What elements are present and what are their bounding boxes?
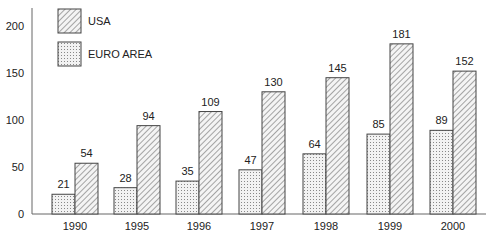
x-tick-label: 1995: [125, 220, 149, 232]
data-label: 85: [372, 118, 384, 130]
legend-label: EURO AREA: [88, 48, 153, 60]
data-label: 54: [80, 147, 92, 159]
legend: USAEURO AREA: [58, 9, 153, 66]
data-label: 35: [181, 165, 193, 177]
data-label: 181: [392, 28, 410, 40]
data-label: 28: [119, 172, 131, 184]
data-label: 64: [308, 138, 320, 150]
x-tick-label: 1997: [250, 220, 274, 232]
data-label: 109: [201, 96, 219, 108]
usa-legend-swatch: [58, 9, 81, 33]
euro-area-bar: [52, 194, 75, 214]
bar-group-2000: 891522000: [430, 55, 476, 232]
data-label: 94: [142, 110, 154, 122]
bar-group-1997: 471301997: [239, 76, 285, 232]
data-label: 21: [57, 178, 69, 190]
usa-bar: [199, 112, 222, 214]
usa-bar: [326, 78, 349, 214]
bar-group-1996: 351091996: [176, 96, 222, 232]
euro-area-bar: [176, 181, 199, 214]
y-tick-label: 150: [6, 67, 24, 79]
data-label: 145: [328, 62, 346, 74]
bar-group-1998: 641451998: [303, 62, 349, 232]
euro-area-bar: [114, 188, 137, 214]
euro-area-bar: [430, 130, 453, 214]
euro-area-bar: [239, 170, 262, 214]
data-label: 152: [455, 55, 473, 67]
data-label: 89: [435, 114, 447, 126]
x-tick-label: 1990: [63, 220, 87, 232]
bar-group-1999: 851811999: [367, 28, 413, 232]
usa-bar: [75, 163, 98, 214]
y-tick-label: 0: [18, 208, 24, 220]
euro-area-bar: [303, 154, 326, 214]
x-tick-label: 1999: [378, 220, 402, 232]
x-tick-label: 1998: [314, 220, 338, 232]
usa-bar: [453, 71, 476, 214]
y-tick-label: 50: [12, 161, 24, 173]
y-tick-label: 200: [6, 20, 24, 32]
euro-area-bar: [367, 134, 390, 214]
x-tick-label: 2000: [441, 220, 465, 232]
usa-bar: [137, 126, 160, 214]
data-label: 130: [264, 76, 282, 88]
bar-group-1995: 28941995: [114, 110, 160, 232]
euro-area-legend-swatch: [58, 42, 81, 66]
x-tick-label: 1996: [187, 220, 211, 232]
bar-group-1990: 21541990: [52, 147, 98, 232]
usa-bar: [390, 44, 413, 214]
data-label: 47: [244, 154, 256, 166]
bar-chart: 050100150200 215419902894199535109199647…: [0, 0, 490, 239]
legend-label: USA: [88, 15, 111, 27]
y-tick-label: 100: [6, 114, 24, 126]
usa-bar: [262, 92, 285, 214]
